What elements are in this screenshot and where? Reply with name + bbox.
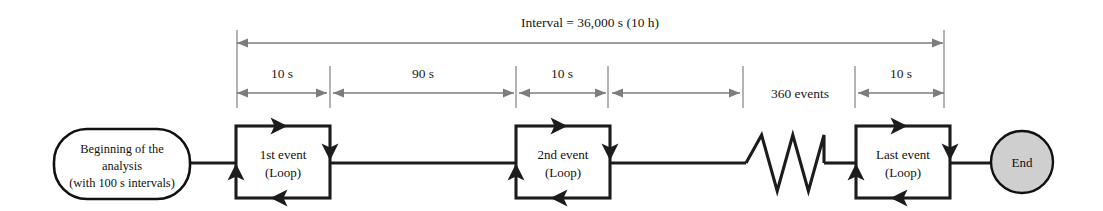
span-90s [333, 88, 514, 97]
interval-total [237, 38, 943, 47]
zigzag-break-symbol [746, 135, 824, 191]
event-loop-last-box [856, 126, 950, 198]
dimension-label-360-events: 360 events [771, 86, 829, 101]
end-node[interactable]: End [991, 131, 1053, 193]
dimension-arrowhead [519, 88, 530, 97]
event-loop-1-box [236, 126, 330, 198]
dimension-arrowhead [503, 88, 514, 97]
event-loop-last-line-1: Last event [876, 147, 930, 162]
event-loop-last[interactable]: Last event (Loop) [856, 126, 950, 198]
diagram-canvas: Interval = 36,000 s (10 h) 10 s 90 s 10 … [0, 0, 1103, 211]
end-node-label: End [1012, 155, 1033, 170]
dimension-arrowhead [333, 88, 344, 97]
span-10s-first [237, 88, 327, 97]
dimension-arrowhead [932, 38, 943, 47]
event-loop-last-line-2: (Loop) [885, 165, 921, 180]
dimension-lines [237, 38, 944, 97]
start-node-line-2: analysis [102, 159, 142, 173]
dimension-label-90s: 90 s [412, 66, 434, 81]
dimension-arrowhead [237, 88, 248, 97]
dimension-label-10s-first: 10 s [271, 66, 293, 81]
span-10s-last [858, 88, 944, 97]
start-node-line-3: (with 100 s intervals) [69, 176, 175, 190]
event-loop-2-line-2: (Loop) [545, 165, 581, 180]
dimension-arrowhead [612, 88, 623, 97]
start-node-line-1: Beginning of the [80, 142, 164, 156]
dimension-label-10s-last: 10 s [890, 66, 912, 81]
event-loop-2[interactable]: 2nd event (Loop) [516, 126, 610, 198]
dimension-label-10s-second: 10 s [551, 66, 573, 81]
event-loop-1-line-2: (Loop) [265, 165, 301, 180]
span-10s-second [519, 88, 606, 97]
event-loop-1-line-1: 1st event [260, 147, 307, 162]
flow-diagram-svg: Interval = 36,000 s (10 h) 10 s 90 s 10 … [0, 0, 1103, 211]
span-360-events [612, 88, 740, 97]
dimension-arrowhead [595, 88, 606, 97]
dimension-arrowhead [316, 88, 327, 97]
dimension-arrowhead [858, 88, 869, 97]
dimension-layer: Interval = 36,000 s (10 h) 10 s 90 s 10 … [237, 15, 944, 108]
interval-title-label: Interval = 36,000 s (10 h) [521, 15, 659, 30]
dimension-arrowhead [237, 38, 248, 47]
event-loop-2-box [516, 126, 610, 198]
event-loop-1[interactable]: 1st event (Loop) [236, 126, 330, 198]
dimension-arrowhead [933, 88, 944, 97]
dimension-arrowhead [729, 88, 740, 97]
event-loop-2-line-1: 2nd event [538, 147, 589, 162]
start-node[interactable]: Beginning of the analysis (with 100 s in… [54, 129, 190, 199]
